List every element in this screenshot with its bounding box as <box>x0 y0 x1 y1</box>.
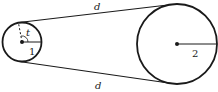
large-pulley-label: 2 <box>192 48 198 59</box>
angle-label: t <box>26 27 31 38</box>
small-pulley-label: 1 <box>29 46 35 57</box>
small-pulley-dashed-radius <box>19 23 23 42</box>
belt-top-label: d <box>94 1 100 12</box>
pulley-diagram: t 1 2 d d <box>0 0 218 92</box>
belt-bottom-label: d <box>95 80 101 91</box>
